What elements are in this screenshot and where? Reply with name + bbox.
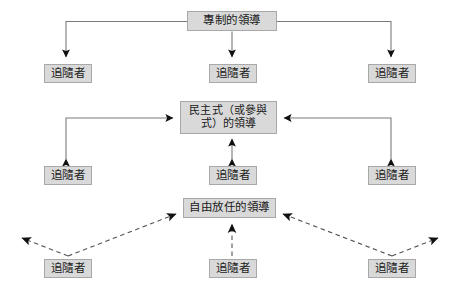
arrow-democratic-left-two-way — [66, 118, 173, 159]
node-follower-bottom-left: 追隨者 — [44, 259, 92, 278]
arrow-bottom-right-outward — [392, 238, 438, 256]
connector-layer — [0, 0, 460, 297]
arrow-bottom-left-outward — [22, 238, 68, 256]
arrow-autocratic-to-top-left — [66, 22, 187, 58]
laissez-faire-connectors — [22, 214, 438, 256]
arrow-autocratic-to-top-right — [277, 22, 391, 58]
node-follower-top-left: 追隨者 — [44, 64, 92, 83]
arrow-bottom-left-to-laissez — [68, 214, 176, 256]
node-laissez-faire-leadership: 自由放任的領導 — [183, 198, 276, 218]
arrow-democratic-right-two-way — [284, 118, 391, 159]
node-follower-top-right: 追隨者 — [368, 64, 416, 83]
arrow-bottom-right-to-laissez — [283, 214, 392, 256]
node-follower-middle-right: 追隨者 — [368, 166, 416, 185]
node-follower-bottom-right: 追隨者 — [368, 259, 416, 278]
node-autocratic-leadership: 專制的領導 — [187, 11, 277, 31]
node-follower-middle-middle: 追隨者 — [209, 166, 257, 185]
node-democratic-leadership: 民主式（或參與 式）的領導 — [180, 101, 277, 134]
node-follower-middle-left: 追隨者 — [44, 166, 92, 185]
node-follower-bottom-middle: 追隨者 — [209, 259, 257, 278]
node-follower-top-middle: 追隨者 — [209, 64, 257, 83]
leadership-styles-diagram: 專制的領導 民主式（或參與 式）的領導 自由放任的領導 追隨者 追隨者 追隨者 … — [0, 0, 460, 297]
